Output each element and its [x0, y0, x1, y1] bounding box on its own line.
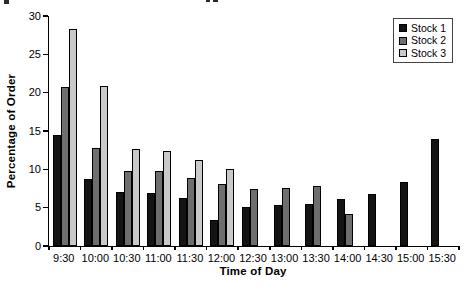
bar-stock-1-11:00: [147, 193, 155, 246]
y-tick-label: 15: [15, 125, 41, 138]
bar-stock-3-10:30: [132, 149, 140, 246]
y-tick-mark: [43, 169, 48, 171]
bar-stock-1-13:30: [305, 204, 313, 246]
page-crop-artifact: [206, 0, 210, 2]
bar-stock-2-13:30: [313, 186, 321, 246]
x-tick-mark: [427, 246, 429, 250]
bar-stock-1-12:30: [242, 207, 250, 246]
legend-label: Stock 3: [411, 48, 446, 59]
bar-stock-1-10:30: [116, 192, 124, 246]
bar-stock-2-11:30: [187, 178, 195, 246]
x-tick-mark: [364, 246, 366, 250]
x-tick-mark: [332, 246, 334, 250]
legend: Stock 1Stock 2Stock 3: [393, 18, 453, 63]
bar-stock-2-13:00: [282, 188, 290, 246]
bar-stock-3-9:30: [69, 29, 77, 246]
y-tick-label: 30: [15, 10, 41, 23]
bar-stock-1-13:00: [274, 205, 282, 246]
x-tick-mark: [48, 246, 50, 250]
x-tick-mark: [458, 246, 460, 250]
bar-stock-3-12:00: [226, 169, 234, 246]
y-tick-mark: [43, 130, 48, 132]
legend-label: Stock 1: [411, 23, 446, 34]
y-tick-mark: [43, 15, 48, 17]
x-tick-mark: [301, 246, 303, 250]
bar-stock-1-15:30: [431, 139, 439, 246]
x-tick-mark: [269, 246, 271, 250]
bar-stock-2-9:30: [61, 87, 69, 246]
bar-stock-1-14:00: [337, 199, 345, 246]
x-tick-label: 15:30: [424, 252, 460, 265]
y-tick-mark: [43, 54, 48, 56]
bar-stock-1-9:30: [53, 135, 61, 246]
x-tick-mark: [395, 246, 397, 250]
bar-stock-2-12:00: [218, 184, 226, 246]
bar-stock-2-11:00: [155, 171, 163, 246]
bar-stock-2-10:00: [92, 148, 100, 246]
x-tick-mark: [80, 246, 82, 250]
y-tick-mark: [43, 245, 48, 247]
bar-stock-1-12:00: [210, 220, 218, 246]
bar-stock-2-14:00: [345, 214, 353, 246]
bar-stock-1-14:30: [368, 194, 376, 246]
x-tick-mark: [237, 246, 239, 250]
y-tick-label: 25: [15, 48, 41, 61]
bar-stock-2-10:30: [124, 171, 132, 246]
x-tick-mark: [206, 246, 208, 250]
legend-item: Stock 1: [399, 22, 450, 34]
bar-stock-1-15:00: [400, 182, 408, 246]
legend-label: Stock 2: [411, 35, 446, 46]
x-tick-mark: [111, 246, 113, 250]
chart-figure: Percentage of Order Time of Day Stock 1S…: [0, 0, 466, 292]
y-tick-label: 10: [15, 163, 41, 176]
legend-item: Stock 3: [399, 47, 450, 59]
y-tick-label: 5: [15, 201, 41, 214]
bar-stock-2-12:30: [250, 189, 258, 246]
page-crop-artifact: [4, 0, 9, 4]
x-tick-mark: [143, 246, 145, 250]
legend-swatch: [399, 49, 407, 57]
y-tick-mark: [43, 92, 48, 94]
x-tick-mark: [174, 246, 176, 250]
bar-stock-3-11:30: [195, 160, 203, 246]
bar-stock-1-10:00: [84, 179, 92, 246]
bar-stock-3-10:00: [100, 86, 108, 246]
legend-swatch: [399, 37, 407, 45]
y-tick-label: 0: [15, 240, 41, 253]
bar-stock-3-11:00: [163, 151, 171, 246]
y-tick-mark: [43, 207, 48, 209]
x-axis-title: Time of Day: [193, 265, 313, 277]
legend-swatch: [399, 24, 407, 32]
page-crop-artifact: [213, 0, 218, 2]
bar-stock-1-11:30: [179, 198, 187, 246]
y-tick-label: 20: [15, 86, 41, 99]
legend-item: Stock 2: [399, 35, 450, 47]
